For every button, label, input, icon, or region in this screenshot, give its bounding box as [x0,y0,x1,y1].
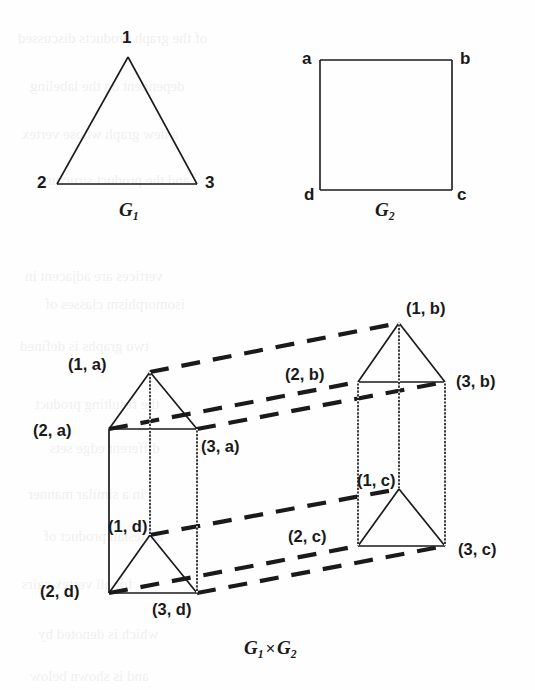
g1-edge [128,57,197,184]
g2-vertex-label-d: d [304,186,314,203]
g1-vertex-label-3: 3 [205,174,214,191]
product-vertex-label-2c: (2, c) [288,528,327,545]
product-caption-g1: G [244,637,258,658]
g1-vertex-label-2: 2 [37,174,46,191]
product-vertex-label-1a: (1, a) [68,356,107,373]
figure-canvas [0,0,535,690]
product-caption-times: × [264,639,277,657]
product-dashed-edge-group [109,323,445,593]
product-vertex-label-3a: (3, a) [201,438,240,455]
g1-edge [57,57,128,184]
product-caption-g2: G [277,637,291,658]
g2-caption-base: G [375,199,389,220]
g2-vertex-label-b: b [460,50,470,67]
g1-edge-group [57,57,197,184]
product-solid-edge [399,323,445,382]
figure-root: of the graph products discusseddependent… [0,0,535,690]
product-caption-g1-subscript: 1 [258,648,264,661]
g1-vertex-label-1: 1 [122,29,131,46]
product-vertex-label-2d: (2, d) [40,583,79,600]
product-vertex-label-3b: (3, b) [456,373,495,390]
product-dashed-edge [150,489,399,535]
g2-vertex-label-a: a [302,50,311,67]
product-vertex-label-1b: (1, b) [406,300,445,317]
g2-caption-subscript: 2 [389,210,395,223]
product-solid-edge [399,489,445,546]
product-dashed-edge [197,382,445,429]
g1-caption: G1 [119,200,139,219]
product-vertex-label-3d: (3, d) [152,601,191,618]
product-dashed-edge [197,546,445,593]
product-solid-edge [358,323,399,382]
product-solid-edge [358,489,399,546]
product-dashed-edge [150,323,399,372]
product-vertex-label-2a: (2, a) [33,422,72,439]
product-vertex-label-3c: (3, c) [458,541,497,558]
g2-vertex-label-c: c [457,186,466,203]
product-vertex-label-1d: (1, d) [108,518,147,535]
g1-caption-base: G [119,199,133,220]
product-vertex-label-2b: (2, b) [285,366,324,383]
g1-caption-subscript: 1 [133,210,139,223]
product-solid-edge-group [109,323,445,593]
product-caption: G1×G2 [244,638,297,657]
g2-caption: G2 [375,200,395,219]
g2-edge-group [320,60,452,190]
product-vertex-label-1c: (1, c) [357,472,396,489]
product-caption-g2-subscript: 2 [291,648,297,661]
